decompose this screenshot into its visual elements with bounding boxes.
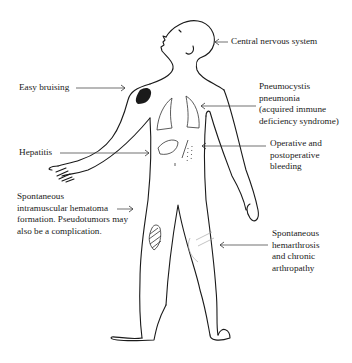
body-outline-svg <box>0 0 352 363</box>
label-line: pneumonia <box>259 93 339 105</box>
arrow-hepatitis <box>60 150 149 156</box>
right-foot <box>210 329 230 340</box>
label-line: Pneumocystis <box>259 81 339 93</box>
label-line: Spontaneous <box>272 228 319 240</box>
hematoma-mark <box>149 225 161 250</box>
left-foot <box>111 305 166 341</box>
label-line: Easy bruising <box>19 82 69 94</box>
label-line: postoperative <box>270 150 322 162</box>
incision-dots <box>187 146 192 164</box>
label-line: bleeding <box>270 161 322 173</box>
body-diagram: Central nervous system Easy bruising Pne… <box>0 0 352 363</box>
torso-left <box>140 118 151 338</box>
label-hepatitis: Hepatitis <box>19 147 52 159</box>
label-line: hemarthrosis <box>272 240 319 252</box>
label-line: (acquired immune <box>259 104 339 116</box>
label-hematoma: Spontaneous intramuscular hematoma forma… <box>17 191 128 237</box>
right-lung <box>186 96 199 128</box>
head-outline <box>166 21 224 90</box>
label-line: also be a complication. <box>17 226 128 238</box>
incision <box>182 140 188 158</box>
arrow-cns <box>215 39 228 45</box>
label-line: Central nervous system <box>231 36 317 48</box>
left-hand <box>49 166 74 182</box>
eye <box>179 30 181 32</box>
arrow-bruising <box>76 85 125 91</box>
label-line: deficiency syndrome) <box>259 116 339 128</box>
arrow-hemarthrosis <box>220 242 268 248</box>
inner-legs <box>166 205 210 335</box>
label-line: Spontaneous <box>17 191 128 203</box>
right-arm-outline <box>206 90 258 221</box>
label-pneumocystis: Pneumocystis pneumonia (acquired immune … <box>259 81 339 127</box>
arrow-operative <box>202 143 266 149</box>
label-hemarthrosis: Spontaneous hemarthrosis and chronic art… <box>272 228 319 274</box>
label-line: Hepatitis <box>19 147 52 159</box>
label-line: arthropathy <box>272 263 319 275</box>
label-easy-bruising: Easy bruising <box>19 82 69 94</box>
liver <box>158 140 178 154</box>
label-line: intramuscular hematoma <box>17 203 128 215</box>
label-line: Operative and <box>270 138 322 150</box>
left-lung <box>157 98 172 130</box>
label-central-nervous-system: Central nervous system <box>231 36 317 48</box>
face-profile <box>150 36 173 84</box>
label-operative-bleeding: Operative and postoperative bleeding <box>270 138 322 173</box>
ear <box>186 46 193 54</box>
torso-right <box>205 116 219 335</box>
bruise-mark <box>136 88 151 104</box>
label-line: formation. Pseudotumors may <box>17 214 128 226</box>
label-line: and chronic <box>272 251 319 263</box>
